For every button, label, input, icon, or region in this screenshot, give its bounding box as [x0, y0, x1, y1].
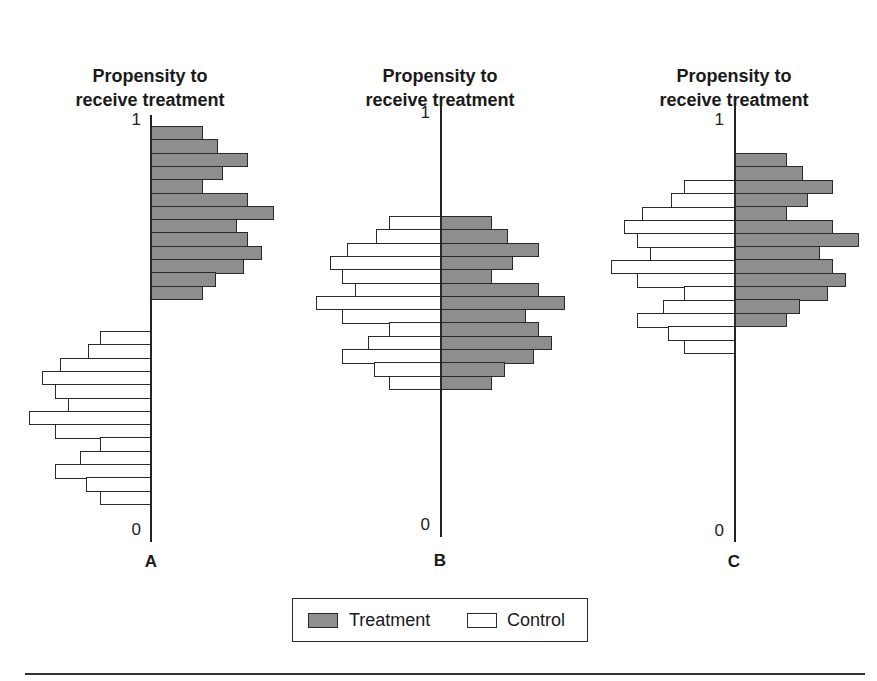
legend-treatment-label: Treatment — [349, 609, 430, 631]
panel-b-letter: B — [430, 551, 450, 571]
bottom-rule — [25, 673, 865, 675]
panel-a-tick-0: 0 — [121, 521, 141, 539]
title-line-1: Propensity to — [40, 64, 260, 88]
control-bar — [389, 376, 441, 391]
panel-b-tick-0: 0 — [410, 516, 430, 534]
panel-c-tick-0: 0 — [704, 522, 724, 540]
title-line-1: Propensity to — [330, 64, 550, 88]
treatment-bar — [441, 376, 492, 391]
panel-a-title: Propensity to receive treatment — [40, 64, 260, 112]
legend: Treatment Control — [292, 598, 588, 642]
panel-c-tick-1: 1 — [704, 111, 724, 129]
treatment-bar — [735, 313, 787, 328]
control-bar — [684, 340, 735, 355]
title-line-1: Propensity to — [624, 64, 844, 88]
panel-a-tick-1: 1 — [121, 111, 141, 129]
title-line-2: receive treatment — [40, 88, 260, 112]
legend-control-swatch — [467, 613, 497, 628]
treatment-bar — [151, 286, 203, 301]
panel-c-title: Propensity to receive treatment — [624, 64, 844, 112]
panel-b-tick-1: 1 — [410, 104, 430, 122]
panel-a-letter: A — [141, 552, 161, 572]
legend-control-label: Control — [507, 609, 565, 631]
panel-c-letter: C — [724, 552, 744, 572]
legend-treatment-swatch — [308, 613, 338, 628]
control-bar — [100, 491, 151, 506]
